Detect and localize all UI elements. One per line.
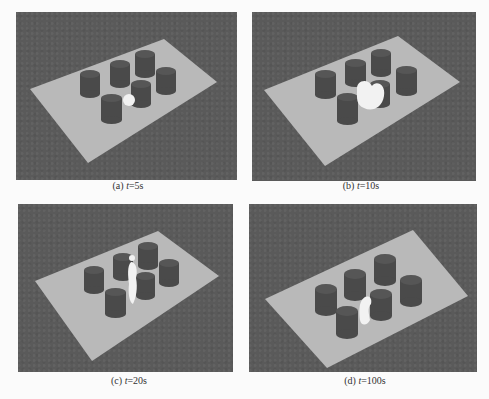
scene-render-c bbox=[18, 204, 233, 372]
fluid-droplet bbox=[123, 94, 135, 106]
scene-render-a bbox=[16, 12, 237, 180]
fluid-droplet bbox=[129, 255, 135, 261]
panel-a-image bbox=[16, 12, 237, 180]
panel-d-image bbox=[249, 204, 477, 372]
caption-b: (b) t=10s bbox=[330, 180, 392, 191]
panel-b-image bbox=[252, 12, 476, 181]
scene-render-d bbox=[249, 204, 477, 372]
panel-c-image bbox=[18, 204, 233, 372]
scene-render-b bbox=[252, 12, 476, 181]
caption-d: (d) t=100s bbox=[330, 375, 400, 386]
caption-c: (c) t=20s bbox=[98, 375, 160, 386]
plate bbox=[35, 231, 219, 361]
caption-a: (a) t=5s bbox=[100, 180, 156, 191]
